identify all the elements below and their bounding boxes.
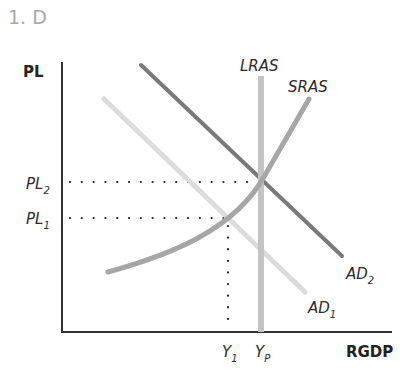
pl1-tick-main: PL	[26, 210, 43, 228]
ad2-label-main: AD	[345, 265, 368, 283]
ad1-label-sub: 1	[330, 309, 336, 320]
sras-label: SRAS	[288, 78, 328, 96]
pl1-tick-label: PL1	[26, 210, 50, 231]
ad2-label: AD2	[345, 265, 374, 286]
y1-tick-label: Y1	[222, 343, 238, 364]
pl2-tick-main: PL	[26, 175, 43, 193]
yp-tick-label: YP	[255, 343, 271, 364]
pl1-tick-sub: 1	[43, 220, 49, 231]
ad1-label: AD1	[307, 299, 336, 320]
y-axis-label: PL	[23, 63, 44, 81]
x-axis-label: RGDP	[346, 343, 393, 361]
ad1-label-main: AD	[307, 299, 330, 317]
sras-curve	[108, 99, 309, 272]
ad-as-diagram: PL RGDP LRAS SRAS AD2 AD1 PL2 PL1 Y1 YP	[0, 0, 415, 379]
y1-tick-sub: 1	[231, 353, 237, 364]
pl2-tick-label: PL2	[26, 175, 50, 196]
ad2-label-sub: 2	[368, 275, 374, 286]
lras-label: LRAS	[240, 57, 279, 75]
yp-tick-sub: P	[264, 353, 271, 364]
pl2-tick-sub: 2	[43, 185, 49, 196]
